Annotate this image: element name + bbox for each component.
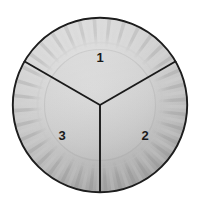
- sector-label-3: 3: [52, 129, 72, 142]
- paper-plate-diagram: [0, 0, 199, 208]
- sector-label-2: 2: [135, 129, 155, 142]
- diagram-canvas: 1 2 3: [0, 0, 199, 208]
- sector-label-1: 1: [90, 51, 110, 64]
